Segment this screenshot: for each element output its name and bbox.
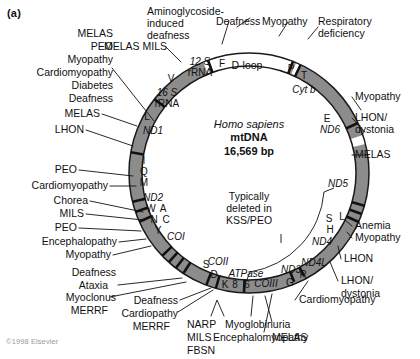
- gene-label-nd1: ND1: [143, 125, 163, 136]
- disease-deafness-k: Deafness: [134, 295, 178, 306]
- trna-label-L-16s: L: [144, 111, 150, 122]
- disease-myopathy-slh: Myopathy: [355, 232, 401, 243]
- gene-label-nd4l: ND4L: [301, 257, 327, 268]
- disease-deafness-16s: Deafness: [69, 93, 113, 104]
- trna-label-K: K: [222, 279, 229, 290]
- disease-deafness-f: Deafness: [216, 16, 260, 27]
- disease-merrf-k: MERRF: [133, 321, 170, 332]
- disease-aminoglycoside-line2: induced: [147, 18, 184, 29]
- disease-aminoglycoside-line3: deafness: [147, 30, 190, 41]
- disease-peo-iqm: PEO: [55, 164, 77, 175]
- trna-label-R: R: [299, 269, 306, 280]
- trna-label-A: A: [160, 203, 167, 214]
- mtdna-genome-map: (a) ©1998 Elsevier Homo sapiens mtDNA 16…: [0, 0, 420, 359]
- disease-melas-mils-v: MELAS MILS: [104, 41, 167, 52]
- disease-lhon-dystonia-nd4-line2: dystonia: [341, 288, 380, 299]
- disease-lhon-nd1: LHON: [55, 124, 84, 135]
- gene-label-nd4: ND4: [312, 236, 332, 247]
- disease-ataxia-sd: Ataxia: [79, 280, 108, 291]
- disease-myoglobinuria-coiii: Myoglobinuria: [225, 319, 290, 330]
- disease-melas-16s: MELAS: [77, 28, 113, 39]
- disease-merrf-sd: MERRF: [71, 305, 108, 316]
- disease-lhon-dystonia-nd6-line2: dystonia: [355, 124, 394, 135]
- trna-label-W: W: [146, 203, 155, 214]
- trna-label-S-nd5: S: [326, 213, 333, 224]
- trna-label-I: I: [143, 155, 146, 166]
- trna-label-S-coi: S: [203, 259, 210, 270]
- disease-myopathy-16s: Myopathy: [67, 54, 113, 65]
- disease-respiratory-line2: deficiency: [318, 28, 365, 39]
- disease-myopathy-wancy: Myopathy: [65, 249, 111, 260]
- trna-label-P: P: [288, 63, 295, 74]
- disease-aminoglycoside-line1: Aminoglycoside-: [147, 6, 224, 17]
- disease-mils-atpase: MILS: [187, 332, 212, 343]
- gene-label-nd5: ND5: [328, 178, 348, 189]
- gene-label-atpase6: 6: [244, 279, 250, 290]
- trna-label-Y: Y: [155, 225, 162, 236]
- disease-melas-nd1: MELAS: [64, 108, 100, 119]
- gene-label-coi: COI: [167, 231, 185, 242]
- disease-narp-atpase: NARP: [187, 319, 216, 330]
- disease-lhon-dystonia-nd6-line1: LHON/: [355, 112, 387, 123]
- disease-cardiopathy-k: Cardiopathy: [121, 308, 178, 319]
- disease-myoclonus-sd: Myoclonus: [66, 292, 116, 303]
- copyright-notice: ©1998 Elsevier: [6, 337, 58, 346]
- disease-lhon-nd4: LHON: [344, 253, 373, 264]
- molecule-name: mtDNA: [214, 131, 284, 144]
- disease-mils-wancy: MILS: [59, 208, 84, 219]
- disease-encephalopathy-wancy: Encephalopathy: [42, 236, 117, 247]
- gene-label-nd6: ND6: [320, 124, 340, 135]
- trna-label-T: T: [301, 70, 307, 81]
- trna-label-G: G: [286, 277, 294, 288]
- gene-label-nd2: ND2: [143, 192, 163, 203]
- deletion-note: Typically deleted in KSS/PEO: [226, 190, 272, 227]
- panel-label: (a): [7, 7, 21, 19]
- gene-label-nd3: ND3: [281, 264, 301, 275]
- trna-label-D: D: [210, 269, 217, 280]
- trna-label-F: F: [219, 58, 225, 69]
- disease-cardiomyopathy-iqm: Cardiomyopathy: [32, 180, 108, 191]
- disease-chorea-wancy: Chorea: [54, 195, 88, 206]
- disease-fbsn-atpase: FBSN: [187, 345, 215, 356]
- disease-melas-nd5: MELAS: [355, 149, 391, 160]
- gene-label-dloop: D-loop: [232, 60, 263, 71]
- disease-peo-wancy: PEO: [55, 222, 77, 233]
- disease-respiratory-line1: Respiratory: [318, 16, 372, 27]
- gene-label-16s-rrna-line1: 16 S: [157, 87, 178, 98]
- trna-label-H: H: [326, 224, 333, 235]
- gene-label-12s-rrna-line2: rRNA: [188, 67, 212, 78]
- disease-cardiomyopathy-16s: Cardiomyopathy: [37, 67, 113, 78]
- trna-label-N: N: [150, 214, 157, 225]
- disease-diabetes-16s: Diabetes: [72, 80, 113, 91]
- gene-label-12s-rrna-line1: 12 S: [190, 56, 211, 67]
- trna-label-M: M: [140, 177, 148, 188]
- trna-label-E: E: [324, 113, 331, 124]
- disease-myopathy-nd6: Myopathy: [355, 91, 401, 102]
- trna-label-V: V: [168, 73, 175, 84]
- trna-label-L-nd5: L: [339, 211, 345, 222]
- gene-label-atpase8: 8: [232, 279, 238, 290]
- species-name: Homo sapiens: [214, 118, 284, 131]
- trna-label-Q: Q: [140, 166, 148, 177]
- genome-size: 16,569 bp: [214, 145, 284, 158]
- gene-label-cytb: Cyt b: [292, 84, 315, 95]
- disease-myopathy-p: Myopathy: [262, 16, 308, 27]
- disease-lhon-dystonia-nd4-line1: LHON/: [341, 275, 373, 286]
- disease-deafness-sd: Deafness: [72, 267, 116, 278]
- trna-label-C: C: [162, 214, 169, 225]
- center-caption: Homo sapiens mtDNA 16,569 bp: [214, 118, 284, 158]
- disease-encephalomyopathy-r: Encephalomyopathy: [213, 332, 308, 343]
- disease-anemia-slh: Anemia: [355, 220, 391, 231]
- gene-label-16s-rrna-line2: rRNA: [155, 98, 179, 109]
- gene-label-coii: COII: [208, 256, 229, 267]
- gene-label-coiii: COIII: [254, 278, 277, 289]
